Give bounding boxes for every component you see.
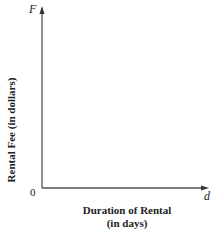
y-variable-label: F xyxy=(29,2,36,17)
origin-label: 0 xyxy=(30,186,36,198)
y-axis-arrow-icon xyxy=(40,6,45,14)
x-variable-label: d xyxy=(204,189,210,204)
y-axis-title: Rental Fee (in dollars) xyxy=(5,78,17,183)
x-axis-title-line2: (in days) xyxy=(82,217,172,230)
x-axis-title-line1: Duration of Rental xyxy=(82,204,172,217)
